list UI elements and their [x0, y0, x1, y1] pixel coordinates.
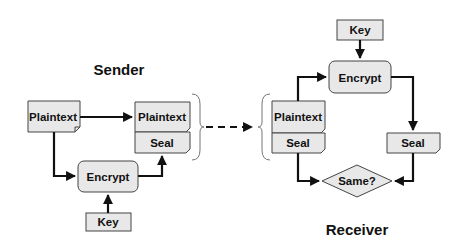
receiver-bundle-plaintext-label: Plaintext [274, 111, 322, 123]
receiver-key-label: Key [349, 24, 371, 36]
sender-plaintext-document: Plaintext [28, 101, 80, 132]
receiver-encrypt-process: Encrypt [329, 61, 391, 93]
receiver-bundle-brace [258, 94, 270, 160]
receiver-computed-seal-label: Seal [401, 137, 425, 149]
compare-decision: Same? [322, 165, 392, 197]
sender-bundle-plaintext-label: Plaintext [138, 111, 186, 123]
sender-plaintext-label: Plaintext [29, 111, 77, 123]
sender-bundle-brace [192, 94, 204, 160]
receiver-bundle-seal-label: Seal [286, 137, 310, 149]
compare-label: Same? [338, 175, 376, 187]
arrow-plaintext-to-encrypt [54, 132, 75, 176]
arrow-plaintext-to-encrypt-receiver [298, 77, 326, 101]
arrow-encrypt-to-seal [138, 156, 162, 176]
seal-diagram: Sender Plaintext Plaintext Seal Encrypt … [0, 0, 466, 246]
sender-key-label: Key [97, 216, 119, 228]
arrow-encrypt-to-seal-receiver [391, 77, 413, 130]
sender-encrypt-process: Encrypt [78, 161, 138, 192]
receiver-key-box: Key [337, 20, 383, 40]
receiver-encrypt-label: Encrypt [339, 72, 382, 84]
receiver-computed-seal: Seal [387, 133, 440, 153]
sender-title: Sender [94, 61, 145, 78]
arrow-received-seal-to-compare [298, 153, 319, 181]
sender-bundle: Plaintext Seal [135, 102, 190, 153]
sender-bundle-seal-label: Seal [150, 137, 174, 149]
sender-encrypt-label: Encrypt [87, 171, 130, 183]
arrow-computed-seal-to-compare [395, 153, 413, 181]
sender-key-box: Key [86, 213, 131, 231]
receiver-title: Receiver [326, 221, 389, 238]
receiver-bundle: Plaintext Seal [272, 101, 325, 153]
